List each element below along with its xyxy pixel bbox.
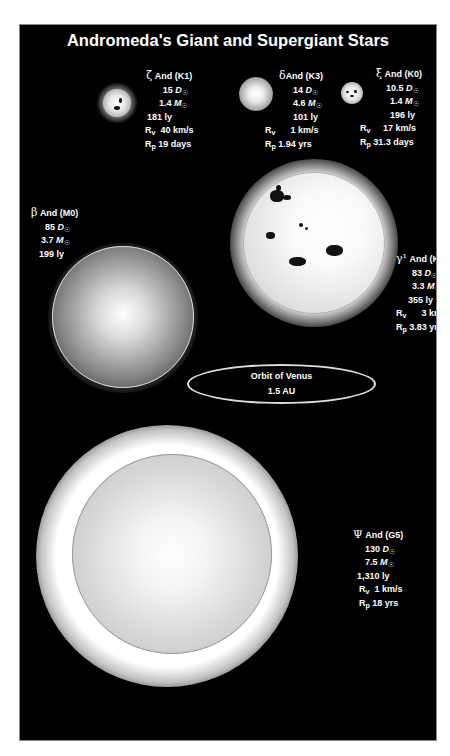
greek-letter: δ bbox=[279, 69, 286, 82]
sun-symbol: ☉ bbox=[316, 102, 322, 109]
rv-value: 1 km/s bbox=[290, 125, 318, 135]
mass-value: 1.4 bbox=[159, 98, 172, 108]
star-beta-outline bbox=[52, 246, 194, 388]
rp-value: 18 yrs bbox=[372, 598, 398, 608]
starspot bbox=[114, 106, 120, 110]
mass-value: 3.3 bbox=[412, 281, 425, 291]
rv-sub: v bbox=[152, 129, 156, 136]
sun-symbol: ☉ bbox=[413, 87, 419, 94]
mass-value: 1.4 bbox=[390, 96, 403, 106]
diameter-value: 83 bbox=[412, 268, 422, 278]
distance-value: 101 ly bbox=[293, 112, 318, 122]
star-label-gamma1: γ¹ And (K3) 83 D☉ 3.3 M☉ 355 ly Rv 3 km/… bbox=[396, 252, 437, 334]
orbit-title: Orbit of Venus bbox=[189, 369, 374, 384]
star-label-psi: Ψ And (G5) 130 D☉ 7.5 M☉ 1,310 ly Rv 1 k… bbox=[353, 528, 403, 610]
greek-letter: ζ bbox=[146, 69, 152, 82]
sun-symbol: ☉ bbox=[388, 561, 394, 568]
orbit-value: 1.5 AU bbox=[189, 384, 374, 399]
diameter-value: 10.5 bbox=[386, 83, 404, 93]
rp-sub: p bbox=[367, 141, 371, 148]
rv-sub: v bbox=[367, 127, 371, 134]
diameter-value: 85 bbox=[45, 222, 55, 232]
sun-symbol: ☉ bbox=[64, 226, 70, 233]
rp-value: 3.83 yrs bbox=[409, 322, 437, 332]
rp-sub: p bbox=[272, 143, 276, 150]
diameter-value: 14 bbox=[293, 85, 303, 95]
venus-orbit-label: Orbit of Venus 1.5 AU bbox=[189, 369, 374, 399]
sun-symbol: ☉ bbox=[64, 239, 70, 246]
distance-value: 196 ly bbox=[390, 110, 415, 120]
distance-value: 181 ly bbox=[147, 112, 172, 122]
greek-letter: γ¹ bbox=[396, 252, 407, 265]
rp-label: R bbox=[359, 598, 366, 608]
star-name: And (K1) bbox=[155, 71, 193, 81]
sun-symbol: ☉ bbox=[312, 89, 318, 96]
rp-sub: p bbox=[403, 326, 407, 333]
starspot bbox=[350, 95, 354, 97]
star-zeta bbox=[103, 89, 131, 117]
starspot bbox=[354, 90, 357, 93]
distance-value: 355 ly bbox=[408, 295, 433, 305]
rv-value: 17 km/s bbox=[383, 123, 416, 133]
star-psi-outline bbox=[72, 454, 272, 654]
star-label-beta: β And (M0) 85 D☉ 3.7 M☉ 199 ly bbox=[31, 206, 78, 261]
star-label-xi: ξ And (K0) 10.5 D☉ 1.4 M☉ 196 ly Rv 17 k… bbox=[376, 67, 422, 149]
sun-symbol: ☉ bbox=[435, 285, 437, 292]
rp-label: R bbox=[265, 139, 272, 149]
sun-symbol: ☉ bbox=[182, 89, 188, 96]
rv-label: R bbox=[145, 125, 152, 135]
starspot bbox=[119, 98, 122, 103]
distance-value: 199 ly bbox=[39, 249, 64, 259]
rp-label: R bbox=[360, 137, 367, 147]
star-xi bbox=[341, 82, 363, 104]
star-name: And (G5) bbox=[365, 530, 403, 540]
greek-letter: ξ bbox=[376, 67, 382, 80]
rv-value: 1 km/s bbox=[374, 584, 402, 594]
rp-value: 31.3 days bbox=[373, 137, 414, 147]
diagram-title: Andromeda's Giant and Supergiant Stars bbox=[20, 31, 436, 50]
distance-value: 1,310 ly bbox=[357, 571, 390, 581]
star-label-delta: δAnd (K3) 14 D☉ 4.6 M☉ 101 ly Rv 1 km/s … bbox=[279, 69, 323, 151]
rv-label: R bbox=[396, 308, 403, 318]
mass-value: 3.7 bbox=[41, 235, 54, 245]
rp-value: 19 days bbox=[158, 139, 191, 149]
rp-sub: p bbox=[366, 602, 370, 609]
diagram-panel: Andromeda's Giant and Supergiant Stars ζ… bbox=[19, 24, 437, 741]
star-gamma1-outline bbox=[243, 172, 385, 314]
rv-label: R bbox=[265, 125, 272, 135]
sun-symbol: ☉ bbox=[181, 102, 187, 109]
sun-symbol: ☉ bbox=[389, 548, 395, 555]
venus-orbit-ellipse: Orbit of Venus 1.5 AU bbox=[187, 364, 376, 404]
sun-symbol: ☉ bbox=[413, 100, 419, 107]
sun-symbol: ☉ bbox=[431, 272, 437, 279]
mass-value: 4.6 bbox=[293, 98, 306, 108]
rv-label: R bbox=[359, 584, 366, 594]
star-label-zeta: ζ And (K1) 15 D☉ 1.4 M☉ 181 ly Rv 40 km/… bbox=[145, 69, 193, 151]
rv-sub: v bbox=[403, 312, 407, 319]
rv-sub: v bbox=[272, 129, 276, 136]
star-name: And (K3) bbox=[410, 254, 438, 264]
rv-value: 40 km/s bbox=[160, 125, 193, 135]
greek-letter: Ψ bbox=[353, 528, 363, 541]
rv-label: R bbox=[360, 123, 367, 133]
rv-value: 3 km/s bbox=[421, 308, 437, 318]
star-name: And (K3) bbox=[286, 71, 324, 81]
rp-label: R bbox=[396, 322, 403, 332]
diameter-value: 15 bbox=[163, 85, 173, 95]
mass-value: 7.5 bbox=[365, 557, 378, 567]
rv-sub: v bbox=[366, 588, 370, 595]
star-name: And (K0) bbox=[385, 69, 423, 79]
star-delta bbox=[239, 77, 273, 111]
page-header-faded bbox=[360, 0, 440, 8]
starspot bbox=[346, 91, 349, 93]
greek-letter: β bbox=[31, 206, 37, 219]
rp-label: R bbox=[145, 139, 152, 149]
star-name: And (M0) bbox=[40, 208, 79, 218]
rp-value: 1.94 yrs bbox=[278, 139, 312, 149]
diameter-value: 130 bbox=[365, 544, 380, 554]
rp-sub: p bbox=[152, 143, 156, 150]
